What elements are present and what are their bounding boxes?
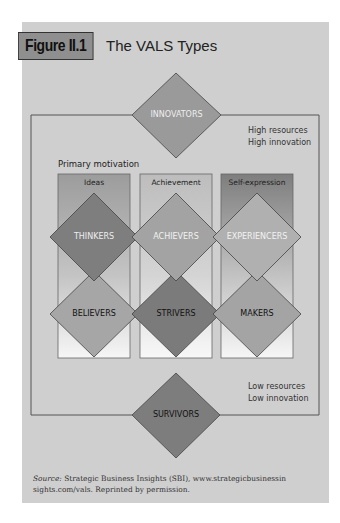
- strivers-label: STRIVERS: [132, 309, 220, 318]
- source-text: Strategic Business Insights (SBI), www.s…: [33, 474, 286, 494]
- low-innovation-label: Low innovation: [248, 394, 309, 403]
- column-header-achievement: Achievement: [140, 178, 212, 187]
- primary-motivation-label: Primary motivation: [58, 159, 139, 169]
- vals-diagram: [0, 0, 340, 523]
- innovators-label: INNOVATORS: [132, 110, 221, 119]
- experiencers-label: EXPERIENCERS: [213, 232, 301, 241]
- low-resources-label: Low resources: [248, 382, 305, 391]
- believers-label: BELIEVERS: [50, 309, 138, 318]
- high-innovation-label: High innovation: [248, 138, 311, 147]
- high-resources-label: High resources: [248, 126, 308, 135]
- column-header-ideas: Ideas: [58, 178, 130, 187]
- makers-label: MAKERS: [213, 309, 301, 318]
- thinkers-label: THINKERS: [50, 232, 138, 241]
- survivors-label: SURVIVORS: [132, 410, 220, 419]
- source-prefix: Source:: [33, 474, 62, 483]
- achievers-label: ACHIEVERS: [132, 232, 220, 241]
- column-header-self-expression: Self-expression: [221, 178, 293, 187]
- source-note: Source: Strategic Business Insights (SBI…: [33, 473, 323, 495]
